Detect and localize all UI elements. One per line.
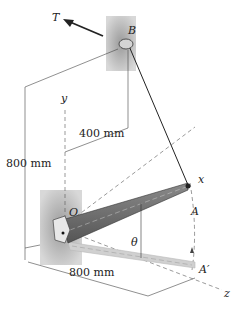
cable-ab [129,46,188,185]
label-800mm-vertical: 800 mm [6,157,51,170]
label-a: A [191,205,199,218]
pulley-b [119,39,133,49]
diagram: T B y 400 mm 800 mm x O A θ 800 mm A′ z [0,0,241,310]
label-y: y [61,92,67,105]
label-theta: θ [131,236,138,249]
label-400mm: 400 mm [79,127,124,140]
label-t: T [52,11,59,24]
point-a [186,184,191,189]
label-z: z [224,287,230,300]
label-x: x [198,173,204,186]
label-o: O [69,206,78,219]
label-a-prime: A′ [199,263,209,276]
label-b: B [128,24,136,37]
force-t-arrow [70,22,103,36]
label-800mm-length: 800 mm [69,266,114,279]
